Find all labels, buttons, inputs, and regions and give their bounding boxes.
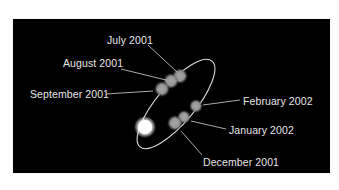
leader-line-january-2002 xyxy=(191,121,226,129)
leader-line-july-2001 xyxy=(148,45,177,72)
label-december-2001: December 2001 xyxy=(203,156,279,168)
leader-line-september-2001 xyxy=(106,91,153,94)
leader-line-february-2002 xyxy=(203,100,240,105)
label-january-2002: January 2002 xyxy=(229,124,294,136)
leader-line-august-2001 xyxy=(121,69,166,80)
label-august-2001: August 2001 xyxy=(63,57,123,69)
bright-body-core xyxy=(138,120,152,134)
observation-blobs xyxy=(154,68,203,131)
label-july-2001: July 2001 xyxy=(107,34,153,46)
primary-body xyxy=(134,116,156,138)
figure-frame: July 2001 August 2001 September 2001 Feb… xyxy=(0,0,339,190)
leader-lines xyxy=(106,45,240,155)
label-september-2001: September 2001 xyxy=(30,88,109,100)
leader-line-december-2001 xyxy=(181,131,202,155)
label-february-2002: February 2002 xyxy=(243,95,313,107)
